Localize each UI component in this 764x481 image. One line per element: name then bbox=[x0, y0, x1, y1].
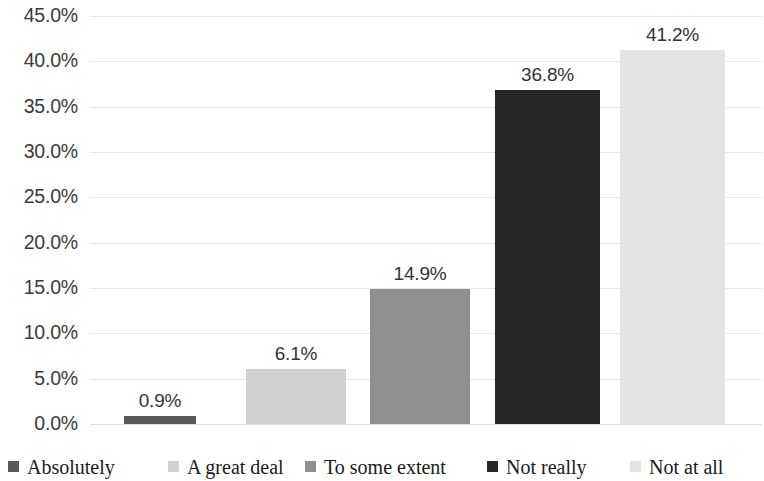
legend-label: Not really bbox=[506, 457, 587, 477]
legend-item-not-really[interactable]: Not really bbox=[487, 457, 587, 477]
gridline-450 bbox=[90, 16, 762, 17]
y-axis-tick-label: 15.0% bbox=[0, 278, 78, 298]
bar-value-label: 41.2% bbox=[620, 25, 725, 44]
bar-not-at-all[interactable] bbox=[620, 50, 725, 424]
bar-a-great-deal[interactable] bbox=[246, 369, 346, 424]
legend-swatch-icon bbox=[487, 461, 498, 472]
bar-value-label: 36.8% bbox=[495, 65, 600, 84]
legend-label: Not at all bbox=[649, 457, 723, 477]
y-axis-tick-label: 35.0% bbox=[0, 97, 78, 117]
legend-label: A great deal bbox=[187, 457, 284, 477]
legend-swatch-icon bbox=[8, 461, 19, 472]
legend-item-to-some-extent[interactable]: To some extent bbox=[305, 457, 446, 477]
y-axis-tick-label: 25.0% bbox=[0, 187, 78, 207]
y-axis-tick-label: 0.0% bbox=[0, 414, 78, 434]
legend-item-a-great-deal[interactable]: A great deal bbox=[168, 457, 284, 477]
bar-absolutely[interactable] bbox=[124, 416, 196, 424]
y-axis-tick-label: 45.0% bbox=[0, 6, 78, 26]
legend-swatch-icon bbox=[305, 461, 316, 472]
gridline-00 bbox=[90, 424, 762, 425]
y-axis-tick-label: 30.0% bbox=[0, 142, 78, 162]
bar-value-label: 6.1% bbox=[246, 344, 346, 363]
plot-area: 45.0%40.0%35.0%30.0%25.0%20.0%15.0%10.0%… bbox=[0, 0, 764, 440]
bar-value-label: 14.9% bbox=[370, 264, 470, 283]
legend-label: To some extent bbox=[324, 457, 446, 477]
legend-item-absolutely[interactable]: Absolutely bbox=[8, 457, 115, 477]
bar-value-label: 0.9% bbox=[124, 391, 196, 410]
bar-to-some-extent[interactable] bbox=[370, 289, 470, 424]
legend-swatch-icon bbox=[630, 461, 641, 472]
y-axis-tick-label: 20.0% bbox=[0, 233, 78, 253]
y-axis-tick-label: 10.0% bbox=[0, 323, 78, 343]
legend-label: Absolutely bbox=[27, 457, 115, 477]
bar-not-really[interactable] bbox=[495, 90, 600, 424]
legend-swatch-icon bbox=[168, 461, 179, 472]
y-axis-tick-label: 5.0% bbox=[0, 369, 78, 389]
bar-chart: 45.0%40.0%35.0%30.0%25.0%20.0%15.0%10.0%… bbox=[0, 0, 764, 481]
legend-item-not-at-all[interactable]: Not at all bbox=[630, 457, 723, 477]
y-axis-tick-label: 40.0% bbox=[0, 51, 78, 71]
legend: AbsolutelyA great dealTo some extentNot … bbox=[0, 452, 764, 481]
